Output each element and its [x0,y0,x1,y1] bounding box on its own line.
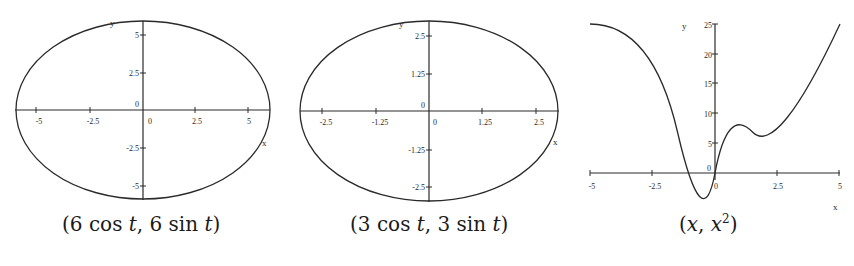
caption-exponent: 2 [722,212,730,226]
y-tick-label: 20 [704,51,712,60]
plot-circle-radius-3: -2.5 -1.25 0 1.25 2.5 2.5 1.25 0 -1.25 -… [300,19,559,202]
x-axis-label: x [553,137,558,147]
caption-var: t [205,212,213,236]
y-tick-label: -1.25 [408,146,425,155]
y-tick-label: 5 [135,31,139,40]
x-tick-label: -2.5 [320,118,333,127]
y-tick-label: 0 [135,100,139,109]
y-tick-label: -5 [132,182,139,191]
y-tick-label: -2.5 [126,144,139,153]
y-axis-label: y [110,18,115,28]
y-tick-label: 25 [704,21,712,30]
plot-parabola: -5 -2.5 0 2.5 5 25 20 15 10 5 0 y x [589,21,842,212]
caption-text: (3 cos [350,212,417,236]
x-tick-label: -5 [36,117,43,126]
x-tick-label: 2.5 [192,117,202,126]
caption-var: t [493,212,501,236]
y-tick-label: 0 [707,164,711,173]
y-tick-label: 1.25 [411,70,425,79]
x-tick-label: 0 [148,117,152,126]
caption-var: x [711,212,722,236]
y-tick-label: 10 [704,110,712,119]
y-tick-label: 5 [708,140,712,149]
caption-var: x [687,212,698,236]
x-tick-label: 2.5 [773,182,783,191]
caption-var: t [129,212,137,236]
x-axis-label: x [262,138,267,148]
y-tick-label: -2.5 [412,183,425,192]
x-tick-label: -5 [589,182,596,191]
x-tick-label: 1.25 [478,118,492,127]
caption-plot-3: (x, x2) [679,212,738,236]
caption-text: ( [679,212,687,236]
y-tick-label: 0 [421,101,425,110]
y-axis-label: y [399,19,404,29]
caption-plot-1: (6 cos t, 6 sin t) [62,212,220,236]
x-tick-label: 2.5 [534,118,544,127]
x-tick-label: 0 [714,182,718,191]
plot-circle-radius-6: -5 -2.5 0 2.5 5 5 2.5 0 -2.5 -5 y x [15,18,270,200]
caption-text: ) [501,212,509,236]
caption-text: ) [213,212,221,236]
y-tick-label: 2.5 [129,69,139,78]
x-tick-label: -2.5 [87,117,100,126]
x-tick-label: 5 [247,117,251,126]
x-tick-label: 0 [433,118,437,127]
y-axis-label: y [682,21,687,31]
y-tick-label: 15 [704,80,712,89]
caption-plot-2: (3 cos t, 3 sin t) [350,212,508,236]
caption-text: ) [730,212,738,236]
y-tick-label: 2.5 [415,32,425,41]
caption-text: , [698,212,711,236]
x-tick-label: 5 [838,182,842,191]
caption-text: (6 cos [62,212,129,236]
caption-var: t [417,212,425,236]
x-tick-label: -1.25 [372,118,389,127]
caption-text: , 6 sin [137,212,205,236]
x-axis-label: x [833,202,838,212]
x-tick-label: -2.5 [649,182,662,191]
caption-text: , 3 sin [425,212,493,236]
